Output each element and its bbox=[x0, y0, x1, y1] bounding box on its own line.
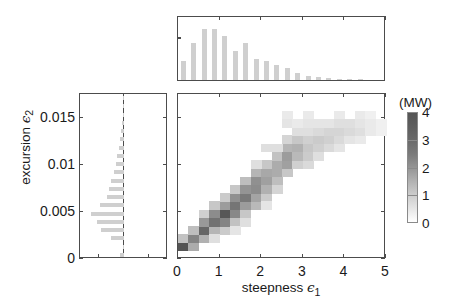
y-axis-tick-right bbox=[381, 258, 385, 259]
top-histogram-y-tick bbox=[177, 37, 181, 38]
x-tick-label: 3 bbox=[298, 264, 306, 278]
heatmap-cells bbox=[178, 94, 384, 257]
heatmap-cell bbox=[303, 144, 314, 153]
x-axis-title-symbol: ϵ bbox=[307, 279, 315, 295]
x-axis-tick-top bbox=[260, 93, 261, 97]
y-tick-label: 0.015 bbox=[40, 110, 75, 124]
histogram-bar bbox=[326, 78, 331, 80]
heatmap-cell bbox=[303, 127, 314, 136]
heatmap-cell bbox=[313, 127, 324, 136]
heatmap-cell bbox=[240, 218, 251, 227]
colorbar-tick bbox=[407, 195, 418, 196]
histogram-bar bbox=[316, 77, 321, 80]
left-histogram-x-tick bbox=[148, 254, 149, 258]
left-marginal-histogram bbox=[79, 93, 167, 258]
top-histogram-x-tick bbox=[302, 16, 303, 20]
x-axis-tick bbox=[343, 254, 344, 258]
heatmap-cell bbox=[251, 185, 262, 194]
heatmap-cell bbox=[240, 201, 251, 210]
histogram-bar bbox=[122, 121, 124, 125]
heatmap-cell bbox=[220, 218, 231, 227]
heatmap-cell bbox=[220, 226, 231, 235]
y-tick-label: 0.005 bbox=[40, 204, 75, 218]
histogram-bar bbox=[101, 228, 124, 232]
heatmap-cell bbox=[251, 177, 262, 186]
heatmap-cell bbox=[282, 152, 293, 161]
left-histogram-y-tick bbox=[79, 211, 83, 212]
heatmap-cell bbox=[282, 111, 293, 120]
heatmap-cell bbox=[313, 119, 324, 128]
left-histogram-x-tick bbox=[98, 254, 99, 258]
histogram-bar bbox=[121, 129, 124, 133]
left-histogram-y-tick bbox=[79, 117, 83, 118]
heatmap-cell bbox=[209, 234, 220, 243]
histogram-bar bbox=[243, 43, 248, 80]
heatmap-cell bbox=[188, 234, 199, 243]
top-histogram-x-tick bbox=[177, 16, 178, 20]
x-axis-tick-top bbox=[343, 93, 344, 97]
left-histogram-y-tick bbox=[79, 164, 83, 165]
heatmap-cell bbox=[282, 168, 293, 177]
heatmap-cell bbox=[324, 144, 335, 153]
left-histogram-y-tick bbox=[79, 258, 83, 259]
heatmap-cell bbox=[272, 185, 283, 194]
heatmap-cell bbox=[303, 111, 314, 120]
x-axis-tick-top bbox=[219, 93, 220, 97]
heatmap-cell bbox=[251, 193, 262, 202]
histogram-bar bbox=[111, 179, 124, 183]
heatmap-cell bbox=[355, 135, 366, 144]
heatmap-cell bbox=[334, 111, 345, 120]
heatmap-cell bbox=[199, 218, 210, 227]
histogram-bar bbox=[306, 76, 311, 80]
x-tick-label: 2 bbox=[256, 264, 264, 278]
heatmap-cell bbox=[282, 135, 293, 144]
x-tick-label: 0 bbox=[173, 264, 181, 278]
colorbar-tick-label: 4 bbox=[422, 105, 430, 120]
histogram-bar bbox=[120, 253, 124, 257]
heatmap-cell bbox=[240, 193, 251, 202]
histogram-bar bbox=[337, 79, 342, 80]
histogram-bar bbox=[295, 73, 300, 80]
x-tick-label: 4 bbox=[339, 264, 347, 278]
heatmap-cell bbox=[303, 135, 314, 144]
heatmap-cell bbox=[209, 201, 220, 210]
heatmap-cell bbox=[199, 226, 210, 235]
histogram-bar bbox=[123, 96, 124, 100]
heatmap-cell bbox=[261, 201, 272, 210]
y-axis-tick bbox=[177, 211, 181, 212]
x-axis-tick-top bbox=[177, 93, 178, 97]
heatmap-cell bbox=[303, 119, 314, 128]
heatmap-cell bbox=[376, 127, 387, 136]
heatmap-cell bbox=[292, 160, 303, 169]
top-histogram-x-tick bbox=[219, 16, 220, 20]
heatmap-cell bbox=[230, 201, 241, 210]
histogram-bar bbox=[116, 162, 124, 166]
y-axis-tick bbox=[177, 258, 181, 259]
heatmap-cell bbox=[188, 243, 199, 252]
heatmap-cell bbox=[282, 119, 293, 128]
top-histogram-x-tick bbox=[343, 16, 344, 20]
heatmap-cell bbox=[303, 152, 314, 161]
x-axis-title-subscript: 1 bbox=[315, 286, 321, 298]
main-heatmap-axes bbox=[177, 93, 385, 258]
top-histogram-x-tick bbox=[385, 16, 386, 20]
y-axis-title-subscript: 2 bbox=[23, 110, 35, 116]
heatmap-cell bbox=[355, 111, 366, 120]
colorbar-tick-label: 1 bbox=[422, 188, 430, 203]
heatmap-cell bbox=[292, 144, 303, 153]
histogram-bar bbox=[202, 29, 207, 80]
heatmap-cell bbox=[334, 119, 345, 128]
figure-canvas: 012345 00.0050.010.015 steepness ϵ1 excu… bbox=[0, 0, 452, 302]
colorbar-tick-label: 2 bbox=[422, 160, 430, 175]
heatmap-cell bbox=[334, 135, 345, 144]
x-axis-tick bbox=[302, 254, 303, 258]
heatmap-cell bbox=[324, 135, 335, 144]
y-axis-title: excursion ϵ2 bbox=[17, 77, 36, 217]
heatmap-cell bbox=[261, 168, 272, 177]
heatmap-cell bbox=[251, 201, 262, 210]
heatmap-cell bbox=[240, 177, 251, 186]
histogram-bar bbox=[347, 79, 352, 80]
heatmap-cell bbox=[220, 210, 231, 219]
histogram-bar bbox=[285, 68, 290, 80]
histogram-bar bbox=[117, 154, 124, 158]
